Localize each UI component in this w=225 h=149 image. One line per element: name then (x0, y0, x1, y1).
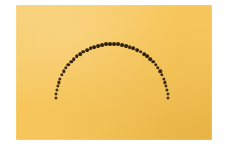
card-fill (16, 5, 212, 140)
image-canvas (0, 0, 225, 149)
orange-card-background (16, 5, 212, 140)
